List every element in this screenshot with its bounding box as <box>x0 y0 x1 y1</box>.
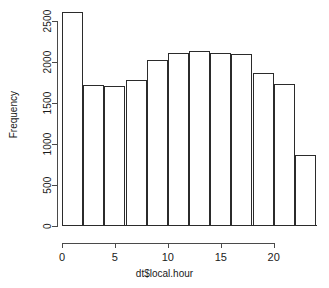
x-tick-mark <box>221 243 222 248</box>
y-tick-label: 0 <box>43 223 53 229</box>
histogram-bar <box>62 12 83 226</box>
histogram-bar <box>253 73 274 226</box>
histogram-bar <box>189 51 210 226</box>
x-tick-label: 0 <box>59 251 65 263</box>
histogram-bar <box>126 80 147 226</box>
histogram-bar <box>104 86 125 226</box>
y-tick-label: 500 <box>43 176 53 193</box>
x-axis-line <box>63 243 275 244</box>
histogram-figure: 05001000150020002500 Frequency 05101520 … <box>0 0 329 288</box>
plot-area <box>62 8 316 226</box>
x-tick-label: 20 <box>268 251 280 263</box>
y-tick-label: 2000 <box>43 50 53 73</box>
y-axis-title: Frequency <box>8 91 19 138</box>
histogram-bar <box>168 53 189 226</box>
x-tick-label: 10 <box>162 251 174 263</box>
y-tick-label: 2500 <box>43 9 53 32</box>
x-tick-label: 15 <box>215 251 227 263</box>
x-axis-baseline <box>62 225 317 226</box>
histogram-bar <box>295 155 316 226</box>
x-axis-title: dt$local.hour <box>0 268 329 280</box>
x-tick-mark <box>168 243 169 248</box>
y-tick-mark <box>52 226 58 227</box>
x-tick-label: 5 <box>112 251 118 263</box>
histogram-bar <box>274 84 295 226</box>
y-tick-label: 1500 <box>43 91 53 114</box>
histogram-bar <box>231 54 252 226</box>
histogram-bar <box>83 85 104 226</box>
y-tick-label: 1000 <box>43 132 53 155</box>
x-tick-mark <box>115 243 116 248</box>
y-axis-line <box>57 21 58 227</box>
x-tick-mark <box>62 243 63 248</box>
histogram-bar <box>210 53 231 226</box>
histogram-bar <box>147 60 168 226</box>
x-tick-mark <box>274 243 275 248</box>
